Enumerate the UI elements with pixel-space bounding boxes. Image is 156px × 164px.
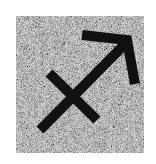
noise-tile xyxy=(16,16,144,153)
image-frame: Sagittarius xyxy=(0,0,156,164)
sagittarius-icon xyxy=(16,16,144,153)
